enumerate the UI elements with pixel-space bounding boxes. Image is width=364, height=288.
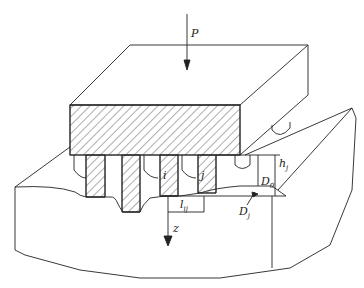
depth-sub: j — [248, 212, 250, 220]
height-hj-label: hj — [279, 158, 288, 172]
diagram-canvas: P i j lij D0 hj Dj z — [0, 0, 364, 288]
z-axis-text: z — [173, 222, 179, 235]
distance-sub: ij — [184, 205, 188, 213]
asperity-i-label: i — [163, 170, 167, 181]
contact-diagram-svg — [0, 0, 364, 288]
load-arrow — [184, 14, 190, 70]
load-text: P — [191, 27, 198, 40]
z-axis-arrow — [164, 236, 172, 246]
z-axis-label: z — [173, 223, 179, 234]
asperity-j-text: j — [201, 169, 204, 182]
dimension-lines — [168, 155, 275, 240]
depth-dj-label: Dj — [239, 206, 250, 220]
depth-base: D — [239, 205, 248, 218]
separation-d0-label: D0 — [261, 176, 274, 190]
distance-lij-label: lij — [180, 199, 188, 213]
separation-base: D — [261, 175, 270, 188]
load-label: P — [191, 28, 198, 39]
asperity-i-text: i — [163, 169, 167, 182]
asperity-j-label: j — [201, 170, 204, 181]
height-sub: j — [286, 164, 288, 172]
separation-sub: 0 — [270, 182, 274, 190]
